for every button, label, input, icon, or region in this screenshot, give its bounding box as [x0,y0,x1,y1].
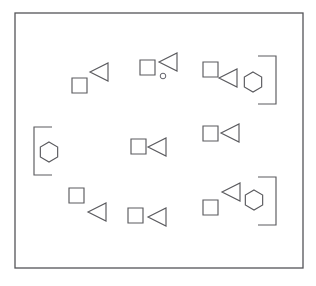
group-bottom-right-square-icon [203,200,218,215]
group-top-right-bracket-icon [258,56,276,104]
group-mid-left-bracket-icon [34,127,52,175]
group-top-left [72,63,108,93]
outer-border [15,13,303,268]
group-bottom-left [69,188,106,221]
group-mid-right-square-icon [203,126,218,141]
group-bottom-right-triangle-icon [222,183,240,201]
group-top-left-square-icon [72,78,87,93]
group-mid-center [131,138,166,156]
group-top-right [203,56,276,104]
group-bottom-center-square-icon [128,208,143,223]
group-top-center-circle-icon [160,73,166,79]
group-mid-right-triangle-icon [221,124,239,142]
group-bottom-center [128,208,166,226]
group-bottom-right-bracket-icon [258,177,276,225]
group-top-right-hexagon-icon [244,72,261,92]
group-mid-center-square-icon [131,139,146,154]
group-mid-right [203,124,239,142]
group-top-right-square-icon [203,62,218,77]
diagram-svg [0,0,316,286]
group-top-left-triangle-icon [90,63,108,81]
group-mid-center-triangle-icon [148,138,166,156]
group-bottom-right [203,177,276,225]
group-top-center-square-icon [140,60,155,75]
group-bottom-left-triangle-icon [88,203,106,221]
group-top-right-triangle-icon [219,69,237,87]
group-top-center [140,53,177,79]
group-top-center-triangle-icon [159,53,177,71]
group-bottom-left-square-icon [69,188,84,203]
shape-layer [34,53,276,226]
group-mid-left [34,127,58,175]
diagram-canvas [0,0,316,286]
group-bottom-center-triangle-icon [148,208,166,226]
group-mid-left-hexagon-icon [40,142,57,162]
group-bottom-right-hexagon-icon [245,190,262,210]
